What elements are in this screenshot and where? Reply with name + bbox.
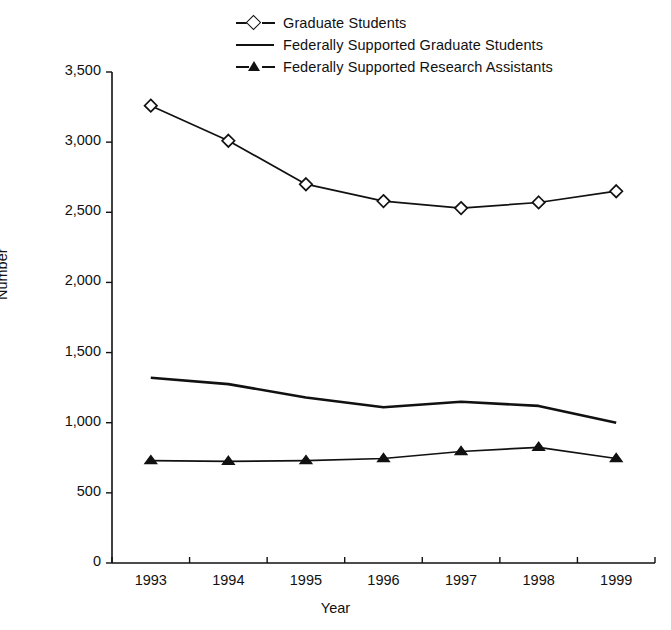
series-3 <box>145 442 622 464</box>
x-axis-tick-label: 1999 <box>576 572 656 588</box>
x-axis-tick-label: 1994 <box>188 572 268 588</box>
x-axis-tick-label: 1993 <box>111 572 191 588</box>
legend-item-label: Graduate Students <box>277 15 406 31</box>
y-axis-tick-label: 3,000 <box>17 132 101 148</box>
legend-item-label: Federally Supported Research Assistants <box>277 59 553 75</box>
x-axis-tick-label: 1995 <box>266 572 346 588</box>
data-point-marker <box>610 185 622 197</box>
chart-figure: Graduate Students Federally Supported Gr… <box>0 0 671 630</box>
series-1 <box>145 99 623 214</box>
chart-legend: Graduate Students Federally Supported Gr… <box>233 12 653 78</box>
legend-item-federally-supported-research-assistants[interactable]: Federally Supported Research Assistants <box>233 56 653 78</box>
y-axis-tick-label: 1,000 <box>17 413 101 429</box>
legend-item-label: Federally Supported Graduate Students <box>277 37 543 53</box>
data-point-marker <box>377 195 389 207</box>
open-diamond-marker-icon <box>233 12 277 34</box>
line-chart-plot <box>0 0 671 630</box>
data-point-marker <box>145 99 157 111</box>
data-point-marker <box>145 455 157 463</box>
y-axis-tick-label: 2,500 <box>17 202 101 218</box>
x-axis-title: Year <box>0 600 671 616</box>
y-axis-tick-label: 2,000 <box>17 272 101 288</box>
data-point-marker <box>533 442 545 450</box>
legend-item-graduate-students[interactable]: Graduate Students <box>233 12 653 34</box>
legend-item-federally-supported-graduate-students[interactable]: Federally Supported Graduate Students <box>233 34 653 56</box>
x-axis-tick-label: 1998 <box>499 572 579 588</box>
data-point-marker <box>222 135 234 147</box>
x-axis-tick-marks <box>112 557 655 563</box>
x-axis-tick-label: 1997 <box>421 572 501 588</box>
data-point-marker <box>532 196 544 208</box>
y-axis-title: Number <box>0 248 10 300</box>
x-axis-tick-label: 1996 <box>344 572 424 588</box>
data-point-marker <box>300 455 312 463</box>
y-axis-tick-label: 1,500 <box>17 343 101 359</box>
series-layer <box>145 99 623 464</box>
axis-lines <box>112 72 655 563</box>
filled-triangle-marker-icon <box>233 56 277 78</box>
y-axis-tick-marks <box>106 72 112 563</box>
y-axis-tick-label: 500 <box>17 483 101 499</box>
series-2 <box>151 378 616 423</box>
solid-line-marker-icon <box>233 34 277 56</box>
data-point-marker <box>300 178 312 190</box>
y-axis-tick-label: 3,500 <box>17 62 101 78</box>
data-point-marker <box>455 202 467 214</box>
data-point-marker <box>222 456 234 464</box>
y-axis-tick-label: 0 <box>17 553 101 569</box>
